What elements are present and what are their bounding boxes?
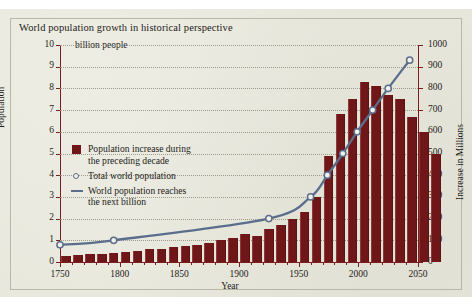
chart-legend: Population increase during the preceding… (72, 143, 191, 211)
figure-page: World population growth in historical pe… (0, 0, 472, 306)
y-axis-label-left: Population (0, 87, 6, 128)
y-axis-tick-label-left: 0 (30, 256, 54, 266)
y-axis-tickmark-right (418, 67, 423, 68)
y-axis-tick-label-left: 3 (30, 190, 54, 200)
legend-item-bars: Population increase during the preceding… (72, 143, 191, 166)
legend-label-line2: the preceding decade (88, 155, 191, 167)
milestone-marker (324, 172, 330, 178)
x-axis-tickmark (311, 262, 312, 265)
x-axis-tick-label: 1750 (51, 269, 70, 279)
x-axis-tickmark (60, 262, 61, 267)
x-axis-tickmark (370, 262, 371, 265)
x-axis-tickmark (275, 262, 276, 265)
x-axis-tickmark (179, 262, 180, 267)
milestone-marker (111, 237, 117, 243)
x-axis-tickmark (96, 262, 97, 265)
x-axis-tickmark (84, 262, 85, 265)
x-axis-tick-label: 2050 (409, 269, 428, 279)
y-axis-tick-label-left: 10 (30, 39, 54, 49)
y-axis-tick-label-left: 1 (30, 234, 54, 244)
x-axis-tickmark (108, 262, 109, 265)
y-axis-tickmark-right (418, 88, 423, 89)
y-axis-tickmark-right (418, 45, 423, 46)
milestone-marker (354, 129, 360, 135)
milestone-marker (266, 216, 272, 222)
legend-label-line2: the next billion (88, 196, 191, 208)
legend-line-icon (71, 190, 83, 192)
legend-label: Population increase during (88, 143, 191, 155)
x-axis-tickmark (215, 262, 216, 265)
x-axis-tickmark (191, 262, 192, 265)
x-axis-tickmark (251, 262, 252, 265)
x-axis-tickmark (263, 262, 264, 265)
x-axis-tickmark (239, 262, 240, 267)
y-axis-tick-label-left: 5 (30, 147, 54, 157)
legend-item-milestone: World population reaches the next billio… (72, 185, 191, 208)
bar (419, 132, 429, 262)
x-axis-tick-label: 1800 (110, 269, 129, 279)
legend-swatch-icon (72, 145, 81, 154)
milestone-marker (370, 107, 376, 113)
y-axis-tick-label-right: 600 (428, 125, 462, 135)
x-axis-tick-label: 1950 (289, 269, 308, 279)
y-axis-tick-label-left: 2 (30, 212, 54, 222)
x-axis-tickmark (155, 262, 156, 265)
x-axis-tickmark (132, 262, 133, 265)
x-axis-tickmark (334, 262, 335, 265)
x-axis-tick-label: 2000 (349, 269, 368, 279)
x-axis-tickmark (203, 262, 204, 265)
milestone-marker (407, 57, 413, 63)
legend-label: World population reaches (88, 185, 191, 197)
y-axis-tick-label-left: 6 (30, 125, 54, 135)
x-axis-tickmark (406, 262, 407, 265)
x-axis-tickmark (346, 262, 347, 265)
x-axis-tickmark (167, 262, 168, 265)
legend-label: Total world population (88, 170, 191, 182)
x-axis-tickmark (72, 262, 73, 265)
bar (431, 154, 441, 263)
x-axis-tickmark (287, 262, 288, 265)
x-axis-tick-label: 1900 (230, 269, 249, 279)
y-axis-tick-label-left: 9 (30, 60, 54, 70)
x-axis-tickmark (358, 262, 359, 267)
y-axis-tick-label-right: 800 (428, 82, 462, 92)
y-axis-label-right: Increase in Millions (455, 124, 465, 200)
x-axis-tickmark (227, 262, 228, 265)
y-axis-tick-label-left: 4 (30, 169, 54, 179)
legend-circle-icon (73, 173, 79, 179)
x-axis-tickmark (394, 262, 395, 265)
x-axis-tickmark (323, 262, 324, 265)
y-axis-tick-label-right: 900 (428, 60, 462, 70)
x-axis-tickmark (382, 262, 383, 265)
y-axis-tick-label-right: 700 (428, 104, 462, 114)
milestone-marker (57, 242, 63, 248)
milestone-marker (385, 85, 391, 91)
legend-item-total: Total world population (72, 170, 191, 182)
x-axis-tickmark (120, 262, 121, 267)
y-axis-tick-label-left: 7 (30, 104, 54, 114)
x-axis-label: Year (0, 281, 472, 291)
milestone-marker (308, 194, 314, 200)
chart-title: World population growth in historical pe… (19, 22, 233, 33)
x-axis-tick-label: 1850 (170, 269, 189, 279)
y-axis-tick-label-right: 1000 (428, 39, 462, 49)
x-axis-tickmark (418, 262, 419, 267)
x-axis-tickmark (144, 262, 145, 265)
x-axis-tickmark (299, 262, 300, 267)
y-axis-tickmark-right (418, 110, 423, 111)
milestone-marker (340, 150, 346, 156)
y-axis-tick-label-left: 8 (30, 82, 54, 92)
